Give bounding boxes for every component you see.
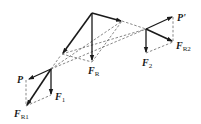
arrow-FR2	[146, 29, 172, 41]
label-F2: F2	[141, 57, 153, 70]
label-P: P	[17, 74, 24, 85]
label-P-prime: P'	[177, 12, 186, 23]
arrow-FR2-shifted	[92, 13, 121, 21]
arrow-FR1-shifted	[63, 13, 92, 53]
label-FR: FR	[87, 65, 100, 78]
label-FR1: FR1	[13, 108, 29, 121]
arrow-P-prime	[146, 17, 172, 29]
label-FR2: FR2	[175, 40, 191, 53]
force-arrows	[27, 13, 172, 105]
force-diagram: P F1 FR1 FR F2 P' FR2	[0, 0, 201, 124]
label-F1: F1	[54, 91, 66, 104]
